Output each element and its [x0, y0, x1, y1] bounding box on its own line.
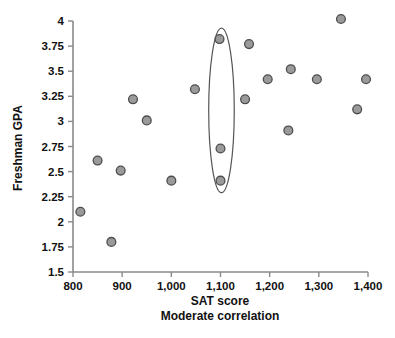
data-point [93, 156, 102, 165]
y-tick-label: 2.75 [42, 141, 65, 153]
y-tick-label: 3.25 [42, 90, 65, 102]
y-tick-label: 2.25 [42, 191, 65, 203]
y-tick-label: 3.5 [48, 65, 65, 77]
data-point [353, 105, 362, 114]
data-point [167, 176, 176, 185]
x-tick-label: 1,200 [255, 280, 284, 292]
y-axis-ticks: 1.51.7522.252.52.7533.253.53.754 [42, 15, 73, 278]
chart-subtitle: Moderate correlation [161, 309, 280, 323]
y-tick-label: 2 [58, 216, 64, 228]
chart-page: 1.51.7522.252.52.7533.253.53.754 8009001… [0, 0, 395, 338]
data-point [142, 116, 151, 125]
x-tick-label: 1,300 [304, 280, 333, 292]
data-point [129, 95, 138, 104]
data-point [284, 126, 293, 135]
data-point [241, 95, 250, 104]
x-tick-label: 800 [63, 280, 82, 292]
scatter-plot: 1.51.7522.252.52.7533.253.53.754 8009001… [0, 0, 395, 338]
data-point [263, 75, 272, 84]
data-point [245, 40, 254, 49]
data-point [216, 144, 225, 153]
data-points [76, 15, 370, 247]
y-tick-label: 4 [58, 15, 65, 27]
data-point [286, 65, 295, 74]
y-tick-label: 3 [58, 115, 64, 127]
y-tick-label: 2.5 [48, 166, 65, 178]
y-tick-label: 1.5 [48, 266, 65, 278]
annotation-layer [209, 28, 235, 193]
data-point [362, 75, 371, 84]
data-point [76, 207, 85, 216]
data-point [116, 166, 125, 175]
x-tick-label: 1,100 [206, 280, 235, 292]
highlight-ellipse-shape [209, 28, 235, 193]
y-tick-label: 1.75 [42, 241, 65, 253]
data-point [191, 85, 200, 94]
x-tick-label: 1,400 [354, 280, 383, 292]
data-point [337, 15, 346, 24]
x-axis-ticks: 8009001,0001,1001,2001,3001,400 [63, 272, 382, 292]
y-axis-title: Freshman GPA [11, 105, 25, 191]
data-point [312, 75, 321, 84]
x-tick-label: 1,000 [157, 280, 186, 292]
x-tick-label: 900 [113, 280, 132, 292]
y-tick-label: 3.75 [42, 40, 65, 52]
x-axis-title: SAT score [191, 294, 250, 308]
data-point [216, 176, 225, 185]
data-point [107, 237, 116, 246]
